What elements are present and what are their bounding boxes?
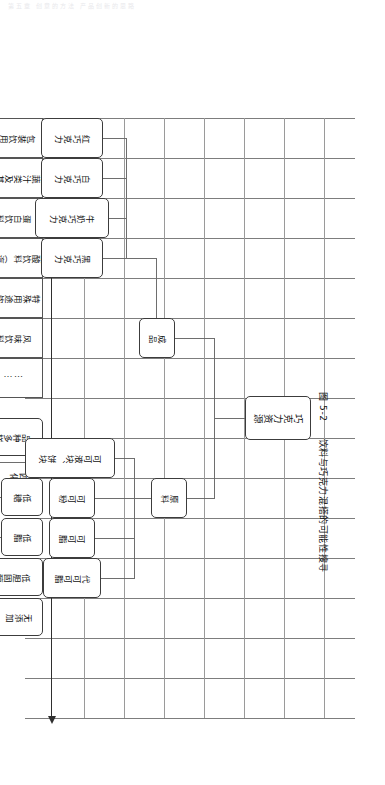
- materials-stub-3: [101, 578, 135, 579]
- chocolate-root-node[interactable]: 巧克力资源: [245, 396, 311, 440]
- chocolate-product-2[interactable]: 白巧克力: [41, 158, 103, 198]
- beverage-item-1[interactable]: 果蔬汁类及其饮料: [0, 158, 43, 198]
- products-drop: [127, 258, 157, 259]
- materials-stub-1: [95, 498, 135, 499]
- chocolate-material-1[interactable]: 可可粉: [49, 478, 95, 518]
- materials-stub-2: [95, 538, 135, 539]
- beverage-item-0[interactable]: 包装饮用水: [0, 118, 43, 158]
- diagram-canvas: 包装饮用水 果蔬汁类及其饮料 蛋白饮料 碳酸饮料（汽水） 特殊用途饮料 风味饮料…: [0, 0, 385, 785]
- products-stub-0: [103, 138, 127, 139]
- chocolate-material-2[interactable]: 可可脂: [49, 518, 95, 558]
- products-stub-3: [103, 258, 127, 259]
- trend-item-low-cholesterol[interactable]: 低胆固醇: [0, 558, 43, 596]
- trend-item-no-additive[interactable]: 无添加: [0, 598, 43, 636]
- trend-item-low-sugar[interactable]: 低糖: [1, 478, 43, 516]
- chocolate-product-3[interactable]: 红巧克力: [41, 118, 103, 158]
- chocolate-material-3[interactable]: 代可可脂: [43, 558, 101, 598]
- products-stub-2: [109, 218, 127, 219]
- chocolate-product-1[interactable]: 牛奶巧克力: [35, 198, 109, 238]
- beverage-item-3[interactable]: 碳酸饮料（汽水）: [0, 238, 43, 278]
- branch-chocolate-products[interactable]: 成品: [139, 318, 175, 358]
- products-stub-1: [103, 178, 127, 179]
- products-bracket-h: [126, 138, 127, 258]
- beverage-item-4[interactable]: 特殊用途饮料: [0, 278, 43, 318]
- figure-rotated-wrapper: 包装饮用水 果蔬汁类及其饮料 蛋白饮料 碳酸饮料（汽水） 特殊用途饮料 风味饮料…: [0, 0, 385, 785]
- branch-chocolate-materials[interactable]: 原料: [151, 478, 187, 518]
- chocolate-trunk-stub-materials: [187, 498, 215, 499]
- chocolate-material-0[interactable]: 可可液块、饼块: [25, 438, 115, 478]
- chocolate-trunk-stub-products: [175, 338, 215, 339]
- chocolate-trunk-drop: [215, 418, 245, 419]
- materials-stub-0: [115, 458, 135, 459]
- trend-item-low-fat[interactable]: 低脂: [1, 518, 43, 556]
- materials-bracket-h: [134, 458, 135, 578]
- products-to-node: [156, 258, 157, 318]
- beverage-item-5[interactable]: 风味饮料: [0, 318, 43, 358]
- beverage-item-6[interactable]: ……: [0, 358, 43, 398]
- possibility-axis-arrow-icon: [48, 716, 56, 724]
- chocolate-product-0[interactable]: 黑巧克力: [41, 238, 103, 278]
